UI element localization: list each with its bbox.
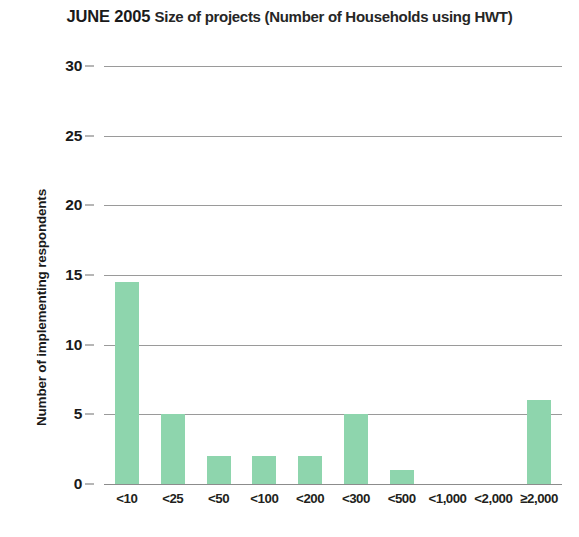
y-axis-tick-mark <box>85 66 94 67</box>
bar <box>161 414 185 484</box>
bar <box>344 414 368 484</box>
bar <box>298 456 322 484</box>
y-axis-tick-mark <box>85 414 94 415</box>
y-axis-tick-label: 30 <box>65 57 82 75</box>
x-axis-tick-label: <500 <box>388 491 416 506</box>
y-axis-tick-mark <box>85 344 94 345</box>
x-axis-tick-label: <100 <box>250 491 278 506</box>
x-axis-tick-label: <300 <box>342 491 370 506</box>
bar <box>115 282 139 484</box>
bar <box>207 456 231 484</box>
bar <box>390 470 414 484</box>
gridline <box>104 136 562 137</box>
x-axis-tick-group: <10<25<50<100<200<300<500<1,000<2,000≥2,… <box>104 491 562 515</box>
x-axis-tick-label: <200 <box>296 491 324 506</box>
gridline <box>104 484 562 485</box>
x-axis-tick-label: <25 <box>162 491 183 506</box>
gridline <box>104 345 562 346</box>
x-axis-tick-label: <2,000 <box>474 491 512 506</box>
y-axis-tick-label: 10 <box>65 336 82 354</box>
y-axis-tick-label: 0 <box>74 475 82 493</box>
chart-title-description: Size of projects (Number of Households u… <box>155 8 513 25</box>
gridline <box>104 66 562 67</box>
x-axis-tick-label: <50 <box>208 491 229 506</box>
y-axis-tick-label: 15 <box>65 266 82 284</box>
x-axis-tick-label: ≥2,000 <box>520 491 558 506</box>
x-axis-tick-label: <10 <box>116 491 137 506</box>
y-axis-tick-mark <box>85 135 94 136</box>
y-axis-tick-mark <box>85 484 94 485</box>
y-axis-tick-label: 25 <box>65 127 82 145</box>
bar <box>527 400 551 484</box>
y-axis-tick-group: 302520151050 <box>0 0 104 537</box>
y-axis-tick-mark <box>85 205 94 206</box>
y-axis-tick-label: 20 <box>65 196 82 214</box>
x-axis-tick-label: <1,000 <box>428 491 466 506</box>
gridline <box>104 275 562 276</box>
gridline <box>104 205 562 206</box>
plot-area <box>104 66 562 484</box>
y-axis-tick-label: 5 <box>74 405 82 423</box>
bar <box>252 456 276 484</box>
y-axis-tick-mark <box>85 275 94 276</box>
